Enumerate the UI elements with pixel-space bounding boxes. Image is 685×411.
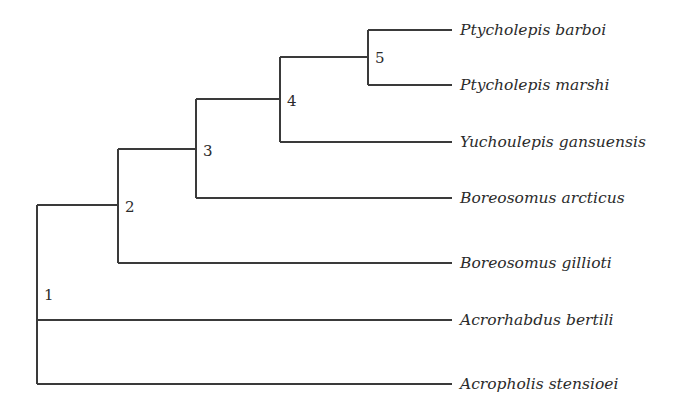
taxon-acropholis-stensioei: Acropholis stensioei	[458, 375, 618, 393]
taxon-boreosomus-arcticus: Boreosomus arcticus	[459, 189, 625, 207]
node-vertical-lines	[37, 30, 368, 384]
node-label-4: 4	[287, 92, 297, 110]
taxon-labels: Ptycholepis barboi Ptycholepis marshi Yu…	[458, 21, 646, 393]
taxon-ptycholepis-barboi: Ptycholepis barboi	[459, 21, 606, 39]
node-label-3: 3	[203, 142, 213, 160]
taxon-acrorhabdus-bertili: Acrorhabdus bertili	[458, 311, 614, 329]
taxon-yuchoulepis-gansuensis: Yuchoulepis gansuensis	[460, 133, 646, 151]
node-label-2: 2	[125, 198, 135, 216]
taxon-ptycholepis-marshi: Ptycholepis marshi	[459, 76, 610, 94]
node-label-1: 1	[44, 286, 54, 304]
branch-lines	[37, 30, 452, 384]
node-labels: 1 2 3 4 5	[44, 49, 385, 304]
cladogram: 1 2 3 4 5 Ptycholepis barboi Ptycholepis…	[0, 0, 685, 411]
taxon-boreosomus-gillioti: Boreosomus gillioti	[459, 254, 612, 272]
node-label-5: 5	[375, 49, 385, 67]
